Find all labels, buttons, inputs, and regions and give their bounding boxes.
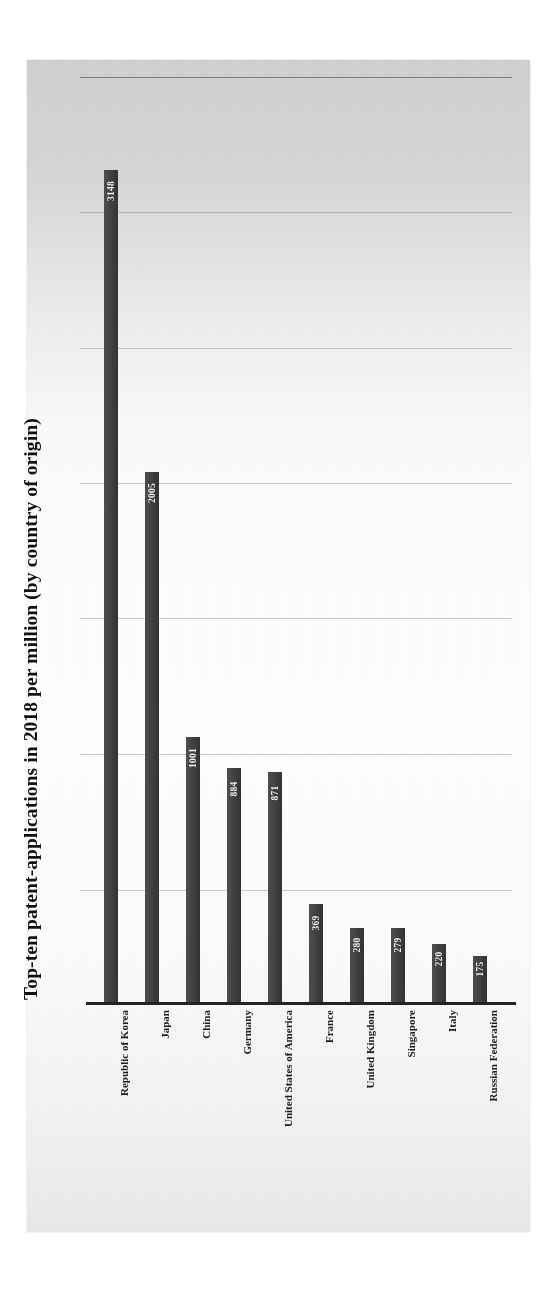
- category-label-china: China: [200, 1010, 212, 1039]
- category-label-republic-of-korea: Republic of Korea: [118, 1010, 130, 1096]
- bar-italy: 220: [432, 944, 446, 1002]
- bar-value-label: 871: [270, 786, 280, 801]
- bar-germany: 884: [227, 768, 241, 1002]
- bar-russian-federation: 175: [473, 956, 487, 1002]
- category-label-singapore: Singapore: [405, 1010, 417, 1057]
- bar-value-label: 220: [434, 952, 444, 967]
- bar-japan: 2005: [145, 472, 159, 1002]
- bar-china: 1001: [186, 737, 200, 1002]
- bar-value-label: 280: [352, 938, 362, 953]
- bar-chart: 3148 2005 1001 884 871 369 280 279 220 1…: [0, 0, 553, 1291]
- gridline-3500: [80, 77, 512, 78]
- bar-republic-of-korea: 3148: [104, 170, 118, 1002]
- category-label-united-kingdom: United Kingdom: [364, 1010, 376, 1089]
- category-label-japan: Japan: [159, 1010, 171, 1039]
- category-label-russian-federation: Russian Federation: [487, 1010, 499, 1101]
- bar-singapore: 279: [391, 928, 405, 1002]
- bar-value-label: 1001: [188, 748, 198, 768]
- bar-value-label: 279: [393, 938, 403, 953]
- category-axis-line: [86, 1002, 516, 1005]
- category-label-france: France: [323, 1010, 335, 1043]
- bar-value-label: 3148: [106, 181, 116, 201]
- gridline-2500: [80, 348, 512, 349]
- chart-title: Top-ten patent-applications in 2018 per …: [20, 418, 42, 1000]
- category-label-germany: Germany: [241, 1010, 253, 1055]
- bar-united-states-of-america: 871: [268, 772, 282, 1002]
- bar-value-label: 369: [311, 916, 321, 931]
- bar-france: 369: [309, 904, 323, 1002]
- category-label-united-states-of-america: United States of America: [282, 1010, 294, 1127]
- category-label-italy: Italy: [446, 1010, 458, 1032]
- bar-value-label: 884: [229, 782, 239, 797]
- bar-value-label: 2005: [147, 483, 157, 503]
- gridline-3000: [80, 212, 512, 213]
- bar-united-kingdom: 280: [350, 928, 364, 1002]
- bar-value-label: 175: [475, 962, 485, 977]
